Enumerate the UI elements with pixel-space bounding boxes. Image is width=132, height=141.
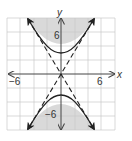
hyperbola-graph: y x −6 6 6 −6 xyxy=(0,0,132,141)
x-tick-label-neg6: −6 xyxy=(9,76,21,87)
y-axis-label: y xyxy=(56,7,63,18)
x-tick-label-6: 6 xyxy=(97,76,103,87)
y-tick-label-6: 6 xyxy=(54,30,60,41)
y-tick-label-neg6: −6 xyxy=(45,109,57,120)
x-axis-label: x xyxy=(116,69,123,80)
